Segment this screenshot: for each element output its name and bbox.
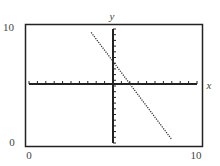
y-max-label: 10 <box>3 21 15 33</box>
x-max-label: 10 <box>191 149 203 161</box>
data-series <box>91 32 172 139</box>
x-min-label: 0 <box>26 149 32 161</box>
x-axis-label: x <box>206 79 212 91</box>
chart-canvas: y x 10 0 0 10 <box>0 0 220 166</box>
y-axis-label: y <box>109 10 115 22</box>
axes <box>29 29 197 143</box>
y-min-label: 0 <box>9 136 15 148</box>
